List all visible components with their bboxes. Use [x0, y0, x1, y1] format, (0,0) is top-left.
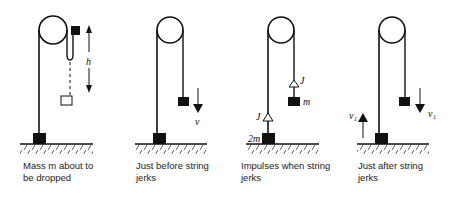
mass-m-held	[71, 26, 80, 35]
panel-4-diagram: v₁ v₁	[349, 17, 436, 154]
velocity-left-label: v₁	[349, 110, 357, 121]
panel-3-diagram: J m J 2m	[246, 17, 319, 154]
caption-line: jerks	[136, 172, 209, 184]
height-label: h	[86, 56, 91, 67]
mass-top-label: m	[303, 96, 310, 107]
caption-line: Mass m about to	[23, 160, 93, 172]
velocity-right-label: v₁	[428, 108, 436, 119]
panel-2-diagram: v	[135, 17, 207, 154]
mass-2m	[375, 133, 388, 144]
mass-bottom-label: 2m	[248, 133, 260, 144]
caption-line: Just after string	[358, 160, 423, 172]
caption-line: Impulses when string	[241, 160, 330, 172]
panel-3-caption: Impulses when string jerks	[241, 160, 330, 184]
caption-line: be dropped	[23, 172, 93, 184]
panel-1-diagram: h	[20, 16, 93, 154]
mass-2m	[262, 133, 275, 144]
mass-m	[288, 97, 300, 106]
panel-1-caption: Mass m about to be dropped	[23, 160, 93, 184]
caption-line: Just before string	[136, 160, 209, 172]
impulse-top-label: J	[300, 75, 305, 86]
panel-4-caption: Just after string jerks	[358, 160, 423, 184]
mass-m	[399, 97, 410, 106]
caption-line: jerks	[358, 172, 423, 184]
velocity-label: v	[195, 116, 200, 127]
panel-2-caption: Just before string jerks	[136, 160, 209, 184]
mass-2m	[153, 133, 166, 144]
mass-m-dropped-outline	[61, 96, 72, 105]
mass-2m	[33, 133, 46, 144]
caption-line: jerks	[241, 172, 330, 184]
impulse-bottom-label: J	[256, 111, 261, 122]
mass-m	[178, 97, 189, 106]
